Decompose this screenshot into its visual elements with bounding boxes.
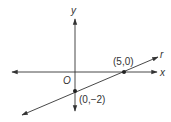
line-r-label: r [160, 49, 164, 60]
x-axis-label: x [159, 67, 166, 78]
point-y-intercept [73, 89, 77, 93]
y-axis-label: y [70, 5, 77, 16]
point-x-intercept [122, 70, 126, 74]
coordinate-plane-diagram: y x O r (5,0) (0,−2) [0, 0, 171, 122]
line-r [22, 57, 158, 115]
point-y-intercept-label: (0,−2) [79, 94, 105, 105]
point-x-intercept-label: (5,0) [113, 56, 134, 67]
origin-label: O [63, 75, 71, 86]
